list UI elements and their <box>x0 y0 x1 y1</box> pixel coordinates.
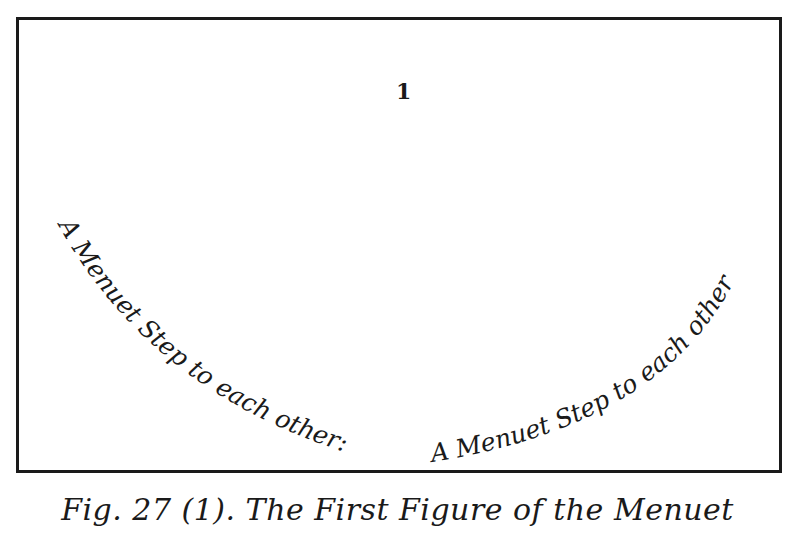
right-dancer-path-label: A Menuet Step to each other <box>426 269 740 469</box>
figure-caption: Fig. 27 (1). The First Figure of the Men… <box>0 492 795 527</box>
left-dancer-path-label: A Menuet Step to each other: <box>52 212 352 458</box>
dance-path-diagram: A Menuet Step to each other: A Menuet St… <box>0 0 795 552</box>
